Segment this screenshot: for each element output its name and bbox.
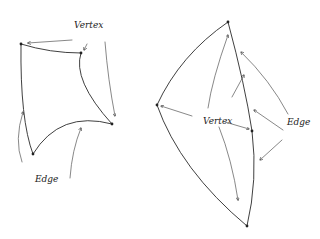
vertex-point: [111, 123, 114, 126]
vertex-point: [156, 104, 159, 107]
left-top-edge: [21, 44, 81, 53]
left-bottom-edge: [33, 121, 112, 154]
edge-arrow-icon: [254, 110, 283, 130]
vertex-arrow-icon: [28, 40, 72, 43]
left-vertex-label: Vertex: [74, 20, 103, 30]
right-edge-label: Edge: [286, 117, 310, 127]
vertex-point: [20, 43, 23, 46]
vertex-arrow-icon: [84, 44, 87, 50]
vertex-point: [227, 21, 230, 24]
edge-direction-arrow-icon: [70, 128, 81, 178]
left-patch: Vertex Edge: [18, 20, 115, 184]
vertex-point: [80, 52, 83, 55]
edge-direction-arrow-icon: [232, 75, 244, 97]
right-top-left-edge: [157, 22, 228, 105]
edge-arrow-icon: [260, 140, 282, 160]
vertex-point: [32, 153, 35, 156]
vertex-arrow-icon: [219, 127, 238, 200]
right-vertex-label: Vertex: [203, 116, 232, 126]
edge-arrow-icon: [241, 52, 288, 114]
edge-direction-arrow-icon: [105, 42, 115, 116]
vertex-point: [251, 130, 254, 133]
sketch-canvas: Vertex Edge Vertex Edge: [0, 0, 320, 239]
vertex-arrow-icon: [161, 106, 192, 116]
vertex-point: [246, 225, 249, 228]
right-patch: Vertex Edge: [156, 21, 311, 228]
edge-direction-arrow-icon: [208, 35, 228, 108]
right-bottom-left-edge: [157, 105, 247, 226]
left-left-edge: [21, 44, 33, 154]
left-edge-label: Edge: [34, 174, 58, 184]
edge-direction-arrow-icon: [18, 112, 23, 162]
